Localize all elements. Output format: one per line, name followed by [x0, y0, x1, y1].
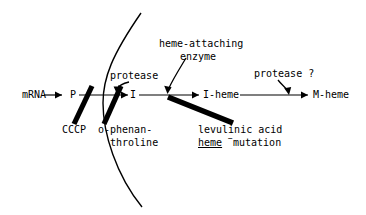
- arrowhead-icon: [55, 92, 62, 99]
- arrow-heme-attaching-enzyme: [164, 58, 186, 94]
- arrowhead-icon: [301, 92, 308, 99]
- inhibitor-label-o-phenanthroline-line1: o-phenan-: [98, 124, 152, 135]
- inhibitor-label-cccp: CCCP: [62, 124, 86, 135]
- heme-minus-text: heme: [198, 137, 222, 148]
- mutation-text: mutation: [233, 137, 281, 148]
- enzyme-label-protease-1: protease: [110, 70, 158, 81]
- edge-mrna-to-p: [44, 92, 62, 99]
- node-label-mheme: M-heme: [313, 89, 349, 100]
- node-label-p: P: [70, 89, 76, 100]
- arrowhead-icon: [164, 86, 171, 94]
- edge-iheme-to-mheme: [240, 92, 308, 99]
- pathway-diagram: mRNA P I I-heme M-heme protease heme-att…: [0, 0, 366, 215]
- enzyme-label-heme-attaching-line2: enzyme: [180, 51, 216, 62]
- arrowhead-icon: [121, 92, 128, 99]
- inhibitor-bar-levulinic: [168, 97, 233, 123]
- arrowhead-icon: [284, 87, 291, 95]
- arrow-protease-2: [278, 80, 291, 95]
- inhibitor-bar-cccp: [74, 86, 92, 124]
- inhibitor-label-o-phenanthroline-line2: throline: [110, 137, 158, 148]
- node-label-mrna: mRNA: [22, 89, 46, 100]
- inhibitor-bar-o-phenanthroline: [104, 86, 121, 124]
- node-label-i: I: [130, 89, 136, 100]
- pathway-svg: mRNA P I I-heme M-heme protease heme-att…: [0, 0, 366, 215]
- inhibitor-label-levulinic-line2: heme − mutation: [198, 134, 281, 148]
- arrowhead-icon: [192, 92, 199, 99]
- inhibitor-label-levulinic-line1: levulinic acid: [198, 124, 282, 135]
- enzyme-label-heme-attaching-line1: heme-attaching: [159, 38, 243, 49]
- node-label-iheme: I-heme: [203, 89, 239, 100]
- enzyme-label-protease-2: protease ?: [254, 68, 314, 79]
